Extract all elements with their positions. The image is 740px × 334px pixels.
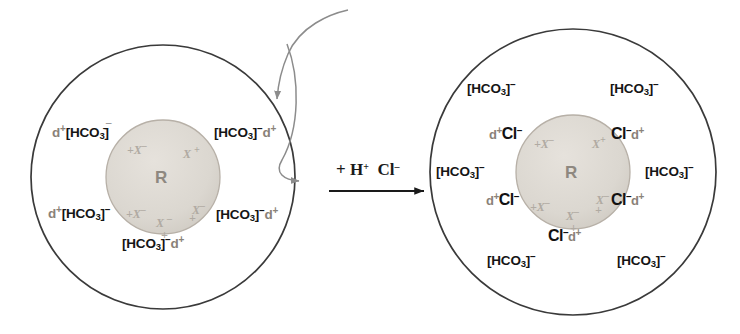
bicarbonate-label: [HCO3] bbox=[214, 125, 257, 140]
chloride-label: Cl bbox=[502, 125, 517, 142]
bicarbonate-label: [HCO3] bbox=[487, 253, 530, 268]
ion-pair-lower-right: [HCO3]–d+ bbox=[216, 206, 278, 223]
ion-pair-upper-left: d+[HCO3]̅– bbox=[52, 124, 108, 141]
right-core-label: R bbox=[565, 163, 577, 183]
bicarbonate-label: [HCO3] bbox=[610, 81, 653, 96]
x-ion-mark: +X– bbox=[534, 134, 554, 152]
bicarbonate-label: [HCO3] bbox=[617, 253, 660, 268]
bicarbonate-label: [HCO3] bbox=[62, 206, 105, 221]
bound-pair-upper-right: Cl–d+ bbox=[611, 126, 644, 142]
bicarbonate-label: [HCO3] bbox=[436, 164, 479, 179]
bound-pair-upper-left: d+Cl– bbox=[489, 126, 522, 142]
reaction-condition-text: + H+ Cl– bbox=[336, 160, 399, 180]
ion-pair-bottom: [HCO3]–d+ bbox=[122, 235, 184, 252]
delta-plus-symbol: d bbox=[568, 229, 575, 244]
free-anion-mid-right: [HCO3]– bbox=[645, 163, 693, 180]
x-ion-mark: +X– bbox=[530, 197, 550, 215]
delta-plus-symbol: d bbox=[48, 206, 56, 221]
left-core-label: R bbox=[155, 168, 167, 188]
bound-pair-lower-left: d+Cl– bbox=[486, 192, 519, 208]
x-ion-mark: + bbox=[189, 211, 196, 226]
x-ion-mark: +X– bbox=[127, 140, 147, 158]
delta-plus-symbol: d bbox=[170, 236, 178, 251]
free-anion-bottom-left: [HCO3]– bbox=[487, 252, 535, 269]
chloride-label: Cl bbox=[611, 125, 626, 142]
reagent-proton: H bbox=[350, 160, 363, 179]
bicarbonate-label: [HCO3] bbox=[645, 164, 688, 179]
delta-plus-symbol: d bbox=[631, 193, 638, 208]
free-anion-bottom-right: [HCO3]– bbox=[617, 252, 665, 269]
bound-pair-lower-right: Cl–d+ bbox=[611, 192, 644, 208]
x-ion-mark: +X– bbox=[126, 204, 146, 222]
incoming-ion-arrow bbox=[277, 10, 348, 99]
free-anion-top-left: [HCO3]– bbox=[467, 80, 515, 97]
delta-plus-symbol: d bbox=[631, 127, 638, 142]
ion-pair-upper-right: [HCO3]–d+ bbox=[214, 124, 276, 141]
bicarbonate-label: [HCO3] bbox=[216, 207, 259, 222]
ion-pair-lower-left: d+[HCO3]– bbox=[48, 205, 110, 222]
chloride-charge: – bbox=[394, 161, 399, 172]
bound-pair-bottom: Cl–d+ bbox=[548, 228, 581, 244]
bicarbonate-label: [HCO3] bbox=[122, 236, 165, 251]
delta-plus-symbol: d bbox=[52, 125, 60, 140]
reagent-chloride: Cl bbox=[377, 160, 394, 179]
chloride-label: Cl bbox=[611, 191, 626, 208]
delta-plus-symbol: d bbox=[262, 125, 270, 140]
bicarbonate-label: [HCO3] bbox=[467, 81, 510, 96]
diagram-canvas: R +X– X + +X– X – X– + + d+[HCO3]̅– [HCO… bbox=[0, 0, 740, 334]
free-anion-mid-left: [HCO3]– bbox=[436, 163, 484, 180]
free-anion-top-right: [HCO3]– bbox=[610, 80, 658, 97]
proton-charge: + bbox=[363, 161, 369, 172]
x-ion-mark: X+ bbox=[592, 134, 606, 152]
reagent-plus-sign: + bbox=[336, 160, 346, 179]
x-ion-mark: + bbox=[595, 203, 602, 218]
delta-plus-symbol: d bbox=[264, 207, 272, 222]
chloride-label: Cl bbox=[548, 227, 563, 244]
x-ion-mark: X + bbox=[183, 144, 200, 162]
chloride-label: Cl bbox=[499, 191, 514, 208]
